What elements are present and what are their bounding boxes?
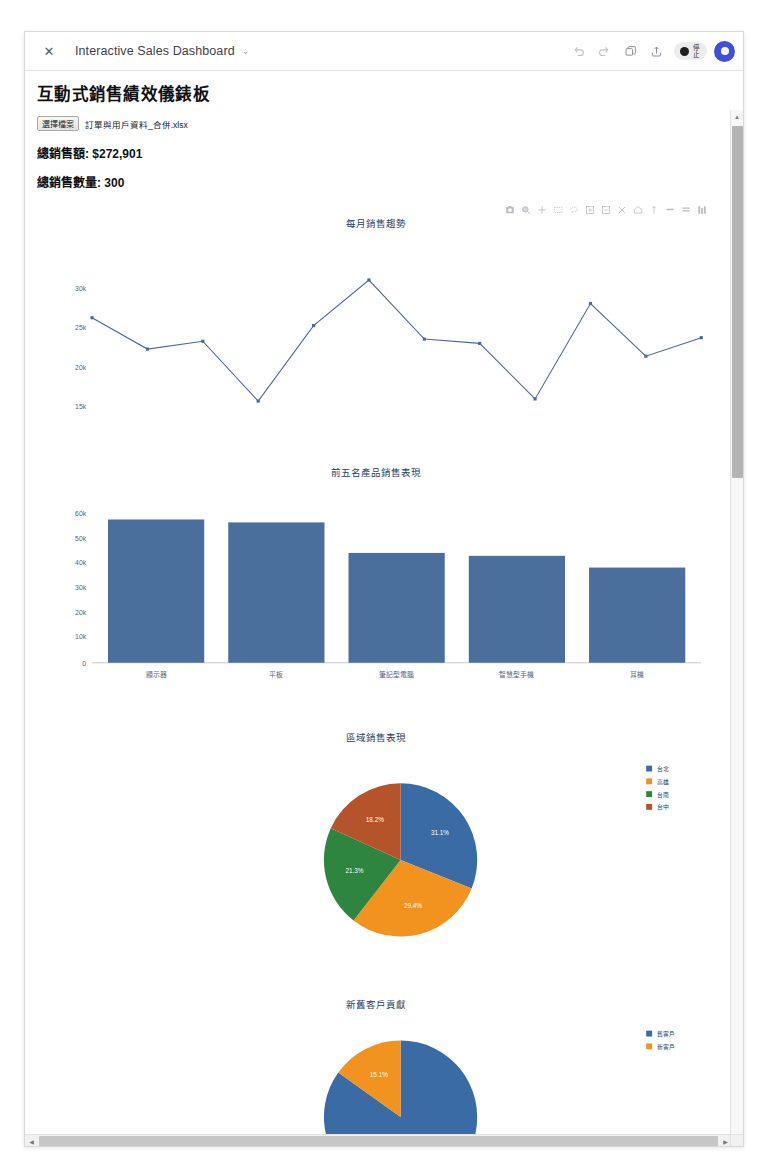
close-icon[interactable]: ✕	[39, 41, 59, 61]
page-title: 互動式銷售績效儀錶板	[37, 81, 715, 105]
ytick-30k: 30k	[75, 285, 87, 292]
bar-category-label: 平板	[269, 670, 283, 679]
bar-category-label: 筆記型電腦	[379, 670, 414, 679]
chart-top5-products: 前五名產品銷售表現 60k 50k 40k 30k 20k 10k 0 顯示器平…	[37, 451, 715, 690]
line-marker	[90, 316, 93, 319]
reset-axes-icon[interactable]	[632, 204, 643, 215]
legend-label[interactable]: 舊客戶	[657, 1030, 675, 1038]
chart-title-customers: 新舊客戶貢獻	[37, 983, 715, 1011]
legend-swatch	[646, 791, 652, 797]
line-marker	[201, 340, 204, 343]
bar-chart-svg[interactable]: 60k 50k 40k 30k 20k 10k 0 顯示器平板筆記型電腦智慧型手…	[37, 479, 715, 690]
line-marker	[312, 324, 315, 327]
legend-swatch	[646, 766, 652, 772]
plotly-logo-icon[interactable]	[696, 204, 707, 215]
window-title: Interactive Sales Dashboard	[75, 44, 235, 58]
bar	[589, 567, 685, 662]
pie-customers-legend[interactable]: 舊客戶新客戶	[646, 1030, 675, 1051]
undo-icon[interactable]	[566, 39, 590, 63]
pie-customers-slices	[324, 1040, 477, 1147]
share-upload-icon[interactable]	[644, 39, 668, 63]
bar-category-label: 顯示器	[146, 671, 167, 679]
line-chart-yticks: 30k 25k 20k 15k	[75, 285, 87, 410]
app-window: ✕ Interactive Sales Dashboard ⌄	[24, 31, 744, 1147]
lasso-select-icon[interactable]	[568, 204, 579, 215]
copy-icon[interactable]	[618, 39, 642, 63]
bar-category-label: 耳機	[630, 670, 644, 679]
choose-file-button[interactable]: 選擇檔案	[37, 116, 79, 131]
plotly-modebar	[504, 204, 707, 215]
ytick-15k: 15k	[75, 403, 87, 410]
chart-title-top5: 前五名產品銷售表現	[37, 451, 715, 479]
legend-swatch	[646, 804, 652, 810]
stop-button-label: 停止	[692, 44, 700, 58]
pie-slice[interactable]	[324, 1040, 477, 1147]
avatar[interactable]	[714, 41, 735, 62]
pie-regional-legend[interactable]: 台北高雄台南台中	[646, 765, 669, 811]
bar	[228, 522, 324, 662]
download-plot-icon[interactable]	[504, 204, 515, 215]
zoom-out-icon[interactable]	[600, 204, 611, 215]
line-marker	[644, 355, 647, 358]
pie-slice-percent: 21.3%	[345, 867, 363, 874]
box-select-icon[interactable]	[552, 204, 563, 215]
line-chart-svg[interactable]: 30k 25k 20k 15k 2 4 6 8 10 12	[37, 230, 715, 417]
pie-regional-slices	[324, 783, 477, 936]
content-pane: 互動式銷售績效儀錶板 選擇檔案 訂單與用戶資料_合併.xlsx 總銷售額: $2…	[25, 71, 743, 1147]
scroll-left-arrow[interactable]: ◀	[25, 1135, 38, 1148]
selected-file-name: 訂單與用戶資料_合併.xlsx	[85, 118, 188, 130]
hover-compare-icon[interactable]	[664, 204, 675, 215]
total-quantity-metric: 總銷售數量: 300	[37, 173, 715, 190]
avatar-inner-dot	[721, 47, 729, 55]
bar-category-labels: 顯示器平板筆記型電腦智慧型手機耳機	[146, 670, 645, 679]
horizontal-scroll-thumb[interactable]	[39, 1136, 718, 1147]
ytick-30k: 30k	[75, 584, 87, 591]
bar-series	[108, 519, 685, 662]
legend-label[interactable]: 台中	[657, 803, 669, 811]
ytick-20k: 20k	[75, 608, 87, 615]
pie-slice-percent: 31.1%	[431, 829, 449, 836]
line-marker	[423, 338, 426, 341]
stop-button[interactable]: 停止	[674, 42, 707, 60]
bar-category-label: 智慧型手機	[499, 670, 534, 679]
legend-label[interactable]: 台北	[657, 765, 669, 773]
hover-closest-icon[interactable]	[680, 204, 691, 215]
line-marker	[257, 400, 260, 403]
legend-swatch	[646, 1031, 652, 1037]
pie-slice-percent: 18.2%	[366, 816, 384, 823]
pan-icon[interactable]	[536, 204, 547, 215]
ytick-20k: 20k	[75, 364, 87, 371]
scrollbar-corner	[730, 1134, 743, 1147]
zoom-in-icon[interactable]	[584, 204, 595, 215]
legend-label[interactable]: 台南	[657, 791, 669, 799]
ytick-50k: 50k	[75, 535, 87, 542]
total-sales-metric: 總銷售額: $272,901	[37, 144, 715, 161]
ytick-60k: 60k	[75, 510, 87, 517]
ytick-10k: 10k	[75, 633, 87, 640]
line-marker	[534, 397, 537, 400]
line-marker	[146, 348, 149, 351]
ytick-25k: 25k	[75, 324, 87, 331]
toggle-spike-lines-icon[interactable]	[648, 204, 659, 215]
pie-slice-percent: 29.4%	[404, 902, 422, 909]
chart-regional-sales: 區域銷售表現 31.1%29.4%21.3%18.2% 台北高雄台南台中	[37, 716, 715, 965]
chevron-down-icon[interactable]: ⌄	[242, 46, 250, 56]
line-marker	[478, 342, 481, 345]
chart-title-regional: 區域銷售表現	[37, 716, 715, 744]
pie-chart-regional-svg[interactable]: 31.1%29.4%21.3%18.2% 台北高雄台南台中	[37, 744, 715, 965]
vertical-scroll-thumb[interactable]	[732, 126, 743, 478]
zoom-icon[interactable]	[520, 204, 531, 215]
legend-label[interactable]: 高雄	[657, 778, 669, 786]
bar	[349, 553, 445, 663]
autoscale-icon[interactable]	[616, 204, 627, 215]
file-upload-row: 選擇檔案 訂單與用戶資料_合併.xlsx	[37, 116, 715, 131]
horizontal-scrollbar[interactable]: ◀ ▶	[25, 1134, 732, 1147]
legend-label[interactable]: 新客戶	[657, 1043, 675, 1051]
ytick-0: 0	[82, 659, 86, 666]
bar-chart-yticks: 60k 50k 40k 30k 20k 10k 0	[75, 510, 87, 666]
vertical-scrollbar[interactable]: ▲ ▼	[730, 110, 743, 1147]
pie-chart-customers-svg[interactable]: 84.9%15.1% 舊客戶新客戶	[37, 1011, 715, 1147]
redo-icon[interactable]	[592, 39, 616, 63]
scroll-up-arrow[interactable]: ▲	[731, 110, 743, 123]
titlebar: ✕ Interactive Sales Dashboard ⌄	[25, 32, 743, 71]
